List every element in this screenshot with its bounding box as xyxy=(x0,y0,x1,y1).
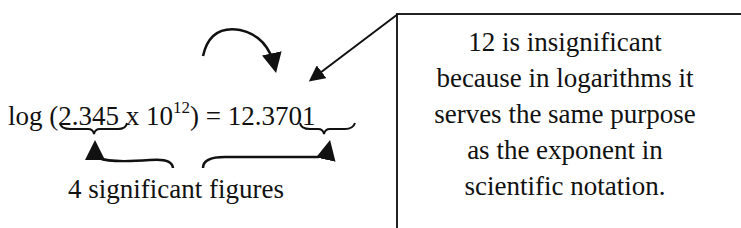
brace-under-result xyxy=(300,123,355,134)
left-arrow-icon xyxy=(95,145,173,168)
pointer-arrow-icon xyxy=(312,14,398,79)
brace-under-mantissa xyxy=(60,123,127,134)
curved-arrow-icon xyxy=(203,29,275,68)
right-arrow-icon xyxy=(203,145,329,168)
